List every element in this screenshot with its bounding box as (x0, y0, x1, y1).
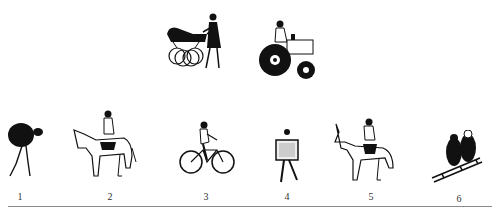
figure-2-horse-rider (72, 108, 138, 184)
tractor-figure (257, 20, 317, 80)
figure-label-1: 1 (10, 191, 30, 202)
figure-4-walker-with-box (273, 128, 303, 184)
figure-label-2: 2 (100, 191, 120, 202)
figure-label-3: 3 (196, 191, 216, 202)
donkey-rider-icon (333, 118, 397, 184)
figure-label-4: 4 (277, 191, 297, 202)
figure-3-cyclist (179, 120, 235, 176)
figure-label-5: 5 (361, 191, 381, 202)
figure-1-load-carrier (6, 120, 44, 178)
person-carrying-load-icon (6, 120, 44, 178)
figure-label-6: 6 (449, 193, 469, 204)
man-on-tractor-icon (257, 20, 317, 80)
woman-with-pram-icon (163, 12, 229, 70)
person-carrying-box-icon (273, 128, 303, 184)
children-on-sledge-icon (430, 130, 486, 184)
figure-6-sledge (430, 130, 486, 184)
cyclist-icon (179, 120, 235, 176)
baseline-divider (8, 206, 492, 207)
figure-5-donkey-rider (333, 118, 397, 184)
horse-rider-icon (72, 108, 138, 184)
pram-figure (163, 12, 229, 70)
